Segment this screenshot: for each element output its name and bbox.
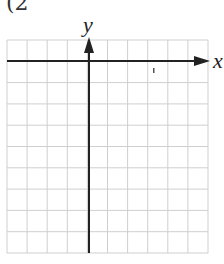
coordinate-grid	[0, 0, 224, 264]
stray-mark	[153, 68, 155, 73]
x-axis-label: x	[213, 50, 223, 72]
y-axis-arrow-icon	[84, 37, 94, 53]
grid-lines	[7, 40, 208, 253]
y-axis-label: y	[83, 14, 93, 36]
